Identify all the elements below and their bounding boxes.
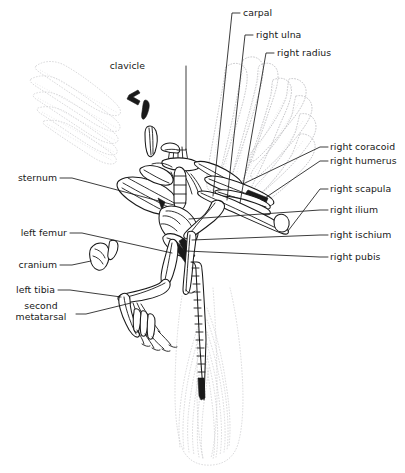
label-right-ilium: right ilium — [330, 205, 378, 216]
leader-clavicle — [178, 66, 186, 150]
label-right-coracoid: right coracoid — [330, 142, 395, 153]
detached-bone-fragments — [127, 90, 149, 119]
label-right-ischium: right ischium — [330, 230, 391, 241]
label-carpal: carpal — [243, 8, 272, 19]
left-wing-feather-impressions — [30, 62, 120, 165]
label-clavicle: clavicle — [100, 61, 145, 72]
label-left-femur: left femur — [5, 228, 67, 239]
leader-left-tibia — [58, 290, 121, 297]
label-sternum: sternum — [5, 173, 57, 184]
rib-fragment — [145, 126, 157, 157]
label-right-pubis: right pubis — [330, 252, 380, 263]
label-right-ulna: right ulna — [256, 30, 301, 41]
label-right-humerus: right humerus — [330, 156, 397, 167]
leader-cranium — [60, 261, 91, 265]
clavicle-bone — [161, 143, 180, 153]
leader-right-ischium — [192, 235, 328, 240]
tail-feather-impressions — [175, 286, 243, 465]
leader-right-humerus — [262, 161, 328, 200]
leader-right-pubis — [186, 251, 328, 257]
leader-left-femur — [70, 233, 172, 253]
cranium-bone — [90, 240, 118, 270]
label-right-scapula: right scapula — [330, 184, 391, 195]
left-hindlimb-bones — [118, 239, 178, 351]
label-second-metatarsal: second metatarsal — [8, 301, 74, 322]
label-cranium: cranium — [5, 260, 57, 271]
label-left-tibia: left tibia — [5, 285, 55, 296]
label-right-radius: right radius — [277, 48, 331, 59]
